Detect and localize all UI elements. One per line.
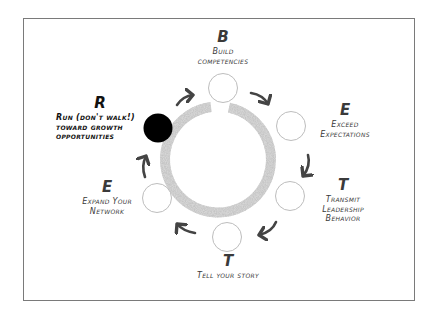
arrow-e2-to-r-icon [143,156,146,177]
node-r-letter: R [56,96,144,111]
node-e2-label: E Expand Your Network [72,180,142,216]
node-t2-label: T Tell your story [178,254,278,281]
center-ring [165,107,271,213]
node-t1-text: Transmit Leadership Behavior [304,195,382,224]
node-e2-letter: E [72,180,142,195]
node-e1-letter: E [305,103,385,118]
node-r-label: R Run (don't walk!) toward growth opport… [56,96,144,142]
node-t2-letter: T [178,254,278,269]
node-r-circle[interactable] [144,114,173,143]
node-e2-text: Expand Your Network [72,197,142,216]
node-b-letter: B [178,30,268,45]
arrow-r-to-b-icon [177,95,193,105]
node-t2-circle[interactable] [213,223,242,252]
node-r-text: Run (don't walk!) toward growth opportun… [56,113,144,142]
node-b-circle[interactable] [209,74,238,103]
node-b-label: B Build competencies [178,30,268,66]
node-e2-circle[interactable] [143,184,172,213]
node-t2-text: Tell your story [178,271,278,281]
node-e1-circle[interactable] [277,112,306,141]
node-t1-label: T Transmit Leadership Behavior [304,178,382,224]
arrow-b-to-e1-icon [251,93,268,104]
arrow-t1-to-t2-icon [259,222,276,235]
node-t1-circle[interactable] [276,182,305,211]
arrow-e1-to-t1-icon [303,155,309,176]
node-e1-text: Exceed Expectations [305,120,385,139]
node-e1-label: E Exceed Expectations [305,103,385,139]
node-t1-letter: T [304,178,382,193]
node-b-text: Build competencies [178,47,268,66]
arrow-t2-to-e2-icon [177,224,195,233]
